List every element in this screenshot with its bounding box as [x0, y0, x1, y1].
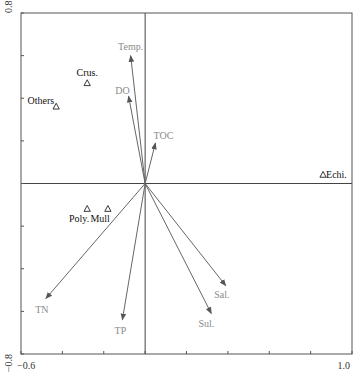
species-label-mull: Mull [90, 213, 110, 224]
vector-label-sul: Sul. [198, 318, 214, 329]
y-tick-label: 0.8 [3, 1, 14, 14]
vector-label-temp: Temp. [118, 41, 143, 52]
species-label-poly: Poly. [69, 213, 89, 224]
y-tick-label: −0.8 [3, 354, 14, 372]
vector-sal [145, 184, 226, 286]
species-point-poly [84, 206, 90, 212]
axes: −0.61.00.8−0.8 [3, 1, 352, 373]
vector-label-sal: Sal. [214, 289, 229, 300]
vector-label-tn: TN [35, 304, 48, 315]
species-point-mull [105, 206, 111, 212]
vector-sul [145, 184, 211, 314]
species-label-echi: Echi. [326, 169, 347, 180]
vector-toc [145, 143, 155, 183]
species-label-crus: Crus. [76, 67, 97, 78]
vector-label-tp: TP [115, 325, 127, 336]
vector-tp [122, 184, 145, 320]
species-label-others: Others [27, 95, 54, 106]
vector-label-toc: TOC [154, 130, 174, 141]
species-points: Crus.OthersEchi.Poly.Mull [27, 67, 346, 224]
x-tick-label: −0.6 [17, 360, 35, 371]
biplot-chart: −0.61.00.8−0.8 Temp.DOTOCTNTPSal.Sul. Cr… [0, 0, 361, 379]
environmental-vectors: Temp.DOTOCTNTPSal.Sul. [35, 41, 229, 336]
vector-tn [46, 184, 145, 299]
vector-label-do: DO [115, 85, 129, 96]
x-tick-label: 1.0 [338, 360, 351, 371]
species-point-crus [84, 80, 90, 86]
